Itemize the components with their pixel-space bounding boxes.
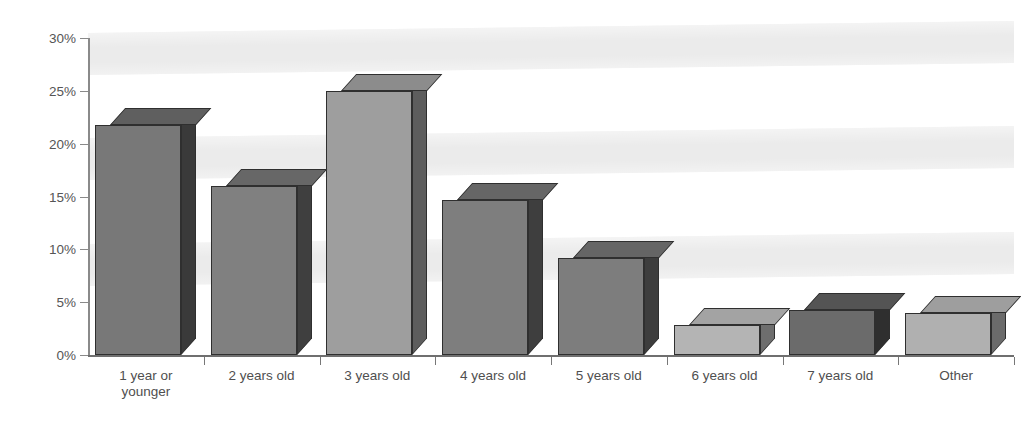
bar-side-face (644, 241, 659, 355)
x-tick-mark (1014, 357, 1015, 365)
y-tick-mark (80, 197, 88, 198)
y-tick-label: 0% (24, 348, 76, 363)
x-tick-label: Other (898, 368, 1014, 384)
bar-front-face (789, 310, 875, 355)
x-tick-label: 2 years old (204, 368, 320, 384)
y-tick-mark (80, 144, 88, 145)
y-tick-mark (80, 249, 88, 250)
x-tick-mark (667, 357, 668, 365)
y-tick-mark (80, 38, 88, 39)
bar-front-face (211, 186, 297, 355)
bar-side-face (528, 183, 543, 355)
x-tick-mark (783, 357, 784, 365)
y-tick-label: 15% (24, 189, 76, 204)
y-tick-mark (80, 355, 88, 356)
bar-front-face (95, 125, 181, 355)
bar (95, 125, 181, 355)
bar-front-face (674, 325, 760, 355)
bar-top-face (804, 293, 905, 310)
bar (674, 325, 760, 355)
bar-side-face (412, 74, 427, 355)
bar (442, 200, 528, 355)
x-tick-label: 4 years old (435, 368, 551, 384)
bar-front-face (442, 200, 528, 355)
y-tick-label: 5% (24, 295, 76, 310)
bar-top-face (573, 241, 674, 258)
y-tick-mark (80, 91, 88, 92)
x-tick-mark (320, 357, 321, 365)
x-tick-mark (898, 357, 899, 365)
bar-top-face (226, 169, 327, 186)
x-tick-mark (435, 357, 436, 365)
bar-top-face (341, 74, 442, 91)
bar-front-face (558, 258, 644, 355)
x-tick-label: 6 years old (667, 368, 783, 384)
y-tick-label: 10% (24, 242, 76, 257)
bar (326, 91, 412, 355)
x-tick-label: 5 years old (551, 368, 667, 384)
bar (789, 310, 875, 355)
bar (558, 258, 644, 355)
bar-top-face (920, 296, 1021, 313)
bar (211, 186, 297, 355)
plot-area (88, 38, 1014, 355)
y-tick-label: 25% (24, 83, 76, 98)
x-tick-mark (204, 357, 205, 365)
y-tick-label: 20% (24, 136, 76, 151)
bar-top-face (689, 308, 790, 325)
x-tick-mark (551, 357, 552, 365)
y-tick-label: 30% (24, 31, 76, 46)
bar-side-face (297, 169, 312, 355)
x-tick-label: 7 years old (783, 368, 899, 384)
x-tick-label: 3 years old (320, 368, 436, 384)
bar-top-face (110, 108, 211, 125)
bar-side-face (181, 108, 196, 355)
bar-front-face (326, 91, 412, 355)
y-tick-mark (80, 302, 88, 303)
bar-front-face (905, 313, 991, 355)
bar (905, 313, 991, 355)
bar-top-face (457, 183, 558, 200)
x-tick-label: 1 year or younger (88, 368, 204, 400)
